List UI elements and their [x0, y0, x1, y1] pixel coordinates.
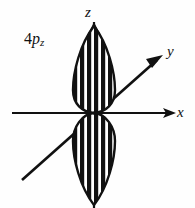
orbital-figure: 4pz z y x	[0, 0, 195, 208]
axis-x-label: x	[177, 105, 184, 120]
orbital-lobe-upper	[70, 20, 120, 118]
axis-z-label: z	[85, 5, 91, 20]
axis-y-label: y	[167, 44, 174, 59]
orbital-label: 4pz	[24, 31, 44, 48]
orbital-lobe-lower	[70, 110, 120, 208]
orbital-label-subscript: z	[40, 36, 44, 48]
orbital-origin-node	[92, 111, 95, 114]
orbital-label-number: 4	[24, 30, 32, 47]
orbital-label-symbol: p	[32, 30, 40, 47]
